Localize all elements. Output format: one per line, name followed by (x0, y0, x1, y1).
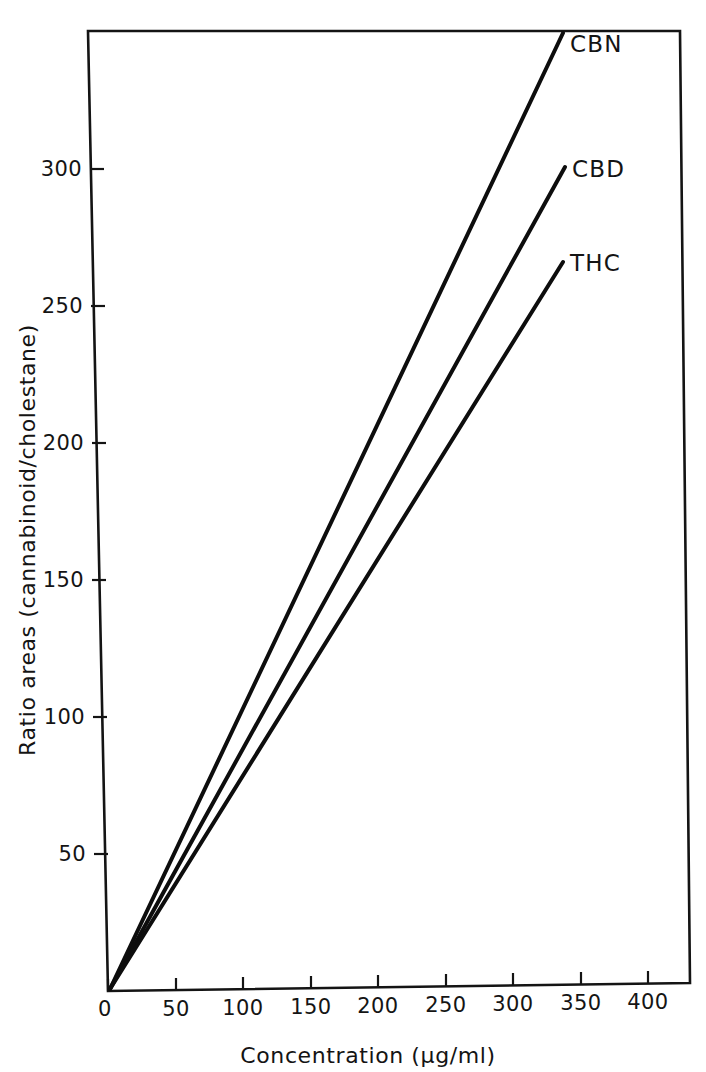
series-line-cbn (110, 33, 563, 989)
x-tick-label-100: 100 (222, 996, 263, 1020)
line-chart-canvas: 0 50 100 150 200 250 300 350 400 50 100 … (0, 0, 706, 1072)
series-label-cbn: CBN (570, 31, 623, 57)
x-tick-label-300: 300 (492, 992, 533, 1016)
x-tick-label-250: 250 (425, 993, 466, 1017)
y-tick-label-150: 150 (43, 568, 84, 592)
x-axis-title: Concentration (μg/ml) (240, 1043, 495, 1068)
y-tick-labels: 50 100 150 200 250 300 (41, 157, 86, 866)
x-tick-labels: 0 50 100 150 200 250 300 350 400 (98, 990, 669, 1021)
series-line-cbd (110, 167, 565, 989)
y-tick-label-300: 300 (41, 157, 82, 181)
series-label-thc: THC (569, 250, 621, 276)
x-tick-label-150: 150 (290, 995, 331, 1019)
series-labels: CBN CBD THC (569, 31, 625, 276)
series-label-cbd: CBD (572, 156, 625, 182)
y-tick-label-100: 100 (44, 705, 85, 729)
y-tick-label-250: 250 (42, 294, 83, 318)
data-series-group (110, 33, 565, 989)
x-tick-label-350: 350 (560, 991, 601, 1015)
x-tick-label-200: 200 (357, 994, 398, 1018)
series-line-thc (110, 262, 563, 989)
x-tick-label-50: 50 (162, 997, 190, 1021)
y-axis-title: Ratio areas (cannabinoid/cholestane) (15, 324, 40, 756)
x-tick-label-0: 0 (98, 997, 112, 1021)
y-tick-label-50: 50 (58, 842, 86, 866)
y-tick-label-200: 200 (43, 431, 84, 455)
x-tick-label-400: 400 (627, 990, 668, 1014)
chart-figure: 0 50 100 150 200 250 300 350 400 50 100 … (0, 0, 706, 1072)
